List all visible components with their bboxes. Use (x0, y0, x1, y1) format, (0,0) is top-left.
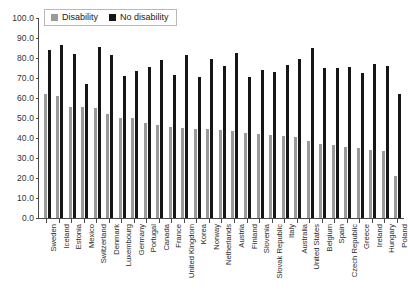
x-axis-label: Spain (328, 224, 341, 300)
x-axis-tick-mark (315, 219, 328, 223)
x-axis-tick-mark (90, 219, 103, 223)
bar-disability (81, 107, 84, 218)
x-axis-tick-mark (115, 219, 128, 223)
bar-no-disability (348, 67, 351, 218)
bar-group (379, 18, 392, 218)
bar-no-disability (60, 45, 63, 218)
bar-no-disability (185, 55, 188, 218)
bar-no-disability (160, 60, 163, 218)
bar-no-disability (273, 72, 276, 218)
chart-legend: Disability No disability (44, 9, 177, 26)
bar-no-disability (286, 65, 289, 218)
bar-disability (382, 151, 385, 218)
x-axis-label: Australia (290, 224, 303, 300)
bar-disability (257, 134, 260, 218)
x-axis-label: Germany (128, 224, 141, 300)
bar-group (316, 18, 329, 218)
x-axis-tick-mark (128, 219, 141, 223)
x-axis-label: Sweden (40, 224, 53, 300)
x-axis-tick-mark (303, 219, 316, 223)
bar-no-disability (48, 50, 51, 218)
bar-group (216, 18, 229, 218)
x-axis-label: Canada (153, 224, 166, 300)
bar-no-disability (223, 66, 226, 218)
bar-no-disability (386, 66, 389, 218)
x-axis-tick-mark (53, 219, 66, 223)
bar-group (166, 18, 179, 218)
legend-swatch-disability-icon (51, 14, 58, 21)
bar-group (266, 18, 279, 218)
bar-group (241, 18, 254, 218)
x-axis-tick-mark (253, 219, 266, 223)
bar-no-disability (398, 94, 401, 218)
bar-no-disability (261, 70, 264, 218)
x-axis-tick-mark (215, 219, 228, 223)
bar-disability (357, 148, 360, 218)
x-axis-label: Slovak Republic (265, 224, 278, 300)
bar-group (91, 18, 104, 218)
bar-group (79, 18, 92, 218)
x-axis-label: Mexico (78, 224, 91, 300)
bar-group (41, 18, 54, 218)
bar-disability (394, 176, 397, 218)
x-axis-label: Hungary (378, 224, 391, 300)
bar-disability (69, 107, 72, 218)
x-axis-label: Greece (353, 224, 366, 300)
x-axis-tick-mark (353, 219, 366, 223)
bar-disability (294, 137, 297, 218)
bar-disability (231, 131, 234, 218)
bar-no-disability (85, 84, 88, 218)
bar-group (204, 18, 217, 218)
bar-disability (94, 108, 97, 218)
bar-group (104, 18, 117, 218)
bar-no-disability (311, 48, 314, 218)
bar-disability (144, 123, 147, 218)
x-axis-tick-mark (40, 219, 53, 223)
bar-disability (44, 94, 47, 218)
bar-disability (156, 125, 159, 218)
bar-no-disability (135, 71, 138, 218)
bar-disability (131, 118, 134, 218)
bar-no-disability (110, 55, 113, 218)
x-axis-label: Poland (390, 224, 403, 300)
bar-no-disability (210, 59, 213, 218)
bar-disability (269, 135, 272, 218)
x-axis-label: Czech Republic (340, 224, 353, 300)
bar-no-disability (248, 77, 251, 218)
x-axis-label: Austria (228, 224, 241, 300)
bar-no-disability (98, 47, 101, 218)
x-axis-tick-mark (103, 219, 116, 223)
x-axis-tick-mark (365, 219, 378, 223)
x-axis-tick-mark (153, 219, 166, 223)
bar-no-disability (148, 67, 151, 218)
bar-group (179, 18, 192, 218)
legend-item-disability: Disability (51, 12, 98, 22)
bar-no-disability (123, 76, 126, 218)
plot-area: 0.010.020.030.040.050.060.070.080.090.01… (38, 18, 404, 219)
x-axis-tick-mark (190, 219, 203, 223)
x-axis-label: Switzerland (90, 224, 103, 300)
bar-group (341, 18, 354, 218)
x-axis-label: Norway (203, 224, 216, 300)
bar-groups (39, 18, 404, 218)
bar-group (329, 18, 342, 218)
bar-no-disability (298, 59, 301, 218)
x-axis-label-text: Poland (400, 224, 408, 248)
x-axis-tick-mark (328, 219, 341, 223)
bar-group (254, 18, 267, 218)
bar-no-disability (323, 68, 326, 218)
x-axis-label: United Kingdom (178, 224, 191, 300)
bar-disability (181, 128, 184, 218)
x-axis-tick-mark (178, 219, 191, 223)
bar-group (141, 18, 154, 218)
bar-group (304, 18, 317, 218)
x-axis-label: Ireland (365, 224, 378, 300)
bar-group (66, 18, 79, 218)
x-axis-label: Estonia (65, 224, 78, 300)
x-axis-tick-mark (278, 219, 291, 223)
x-axis-label: United States (303, 224, 316, 300)
bar-no-disability (73, 54, 76, 218)
bar-group (229, 18, 242, 218)
legend-label-disability: Disability (62, 12, 98, 22)
